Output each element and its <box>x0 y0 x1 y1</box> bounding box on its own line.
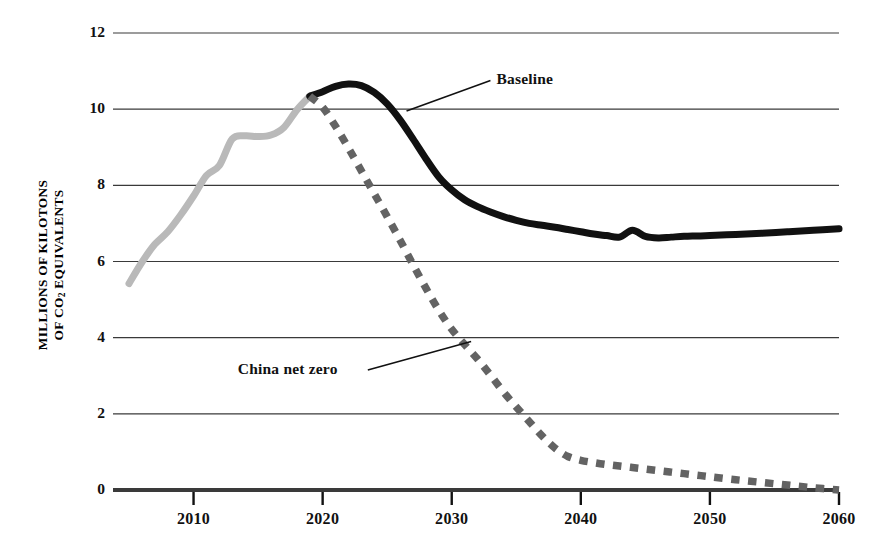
annotation-label: China net zero <box>238 360 338 378</box>
series-line-china-net-zero <box>310 96 839 490</box>
emissions-chart: MILLIONS OF KILOTONS OF CO2 EQUIVALENTS … <box>0 0 884 558</box>
annotation-label: Baseline <box>496 70 553 88</box>
x-tick-label: 2020 <box>293 510 353 528</box>
y-tick-label: 6 <box>79 252 105 270</box>
leader-line <box>407 81 491 111</box>
y-tick-label: 12 <box>79 23 105 41</box>
x-tick-label: 2060 <box>809 510 869 528</box>
y-tick-label: 8 <box>79 175 105 193</box>
annotation-leader-lines <box>368 81 491 370</box>
x-tick-label: 2010 <box>164 510 224 528</box>
x-tick-label: 2040 <box>551 510 611 528</box>
series-layer <box>129 84 839 490</box>
y-tick-label: 10 <box>79 99 105 117</box>
gridlines <box>113 33 839 490</box>
plot-area <box>0 0 884 558</box>
x-axis-ticks <box>194 492 839 505</box>
y-tick-label: 0 <box>79 480 105 498</box>
y-tick-label: 4 <box>79 328 105 346</box>
x-tick-label: 2050 <box>680 510 740 528</box>
y-tick-label: 2 <box>79 404 105 422</box>
x-tick-label: 2030 <box>422 510 482 528</box>
series-line-historical <box>129 96 310 283</box>
leader-line <box>368 341 471 370</box>
